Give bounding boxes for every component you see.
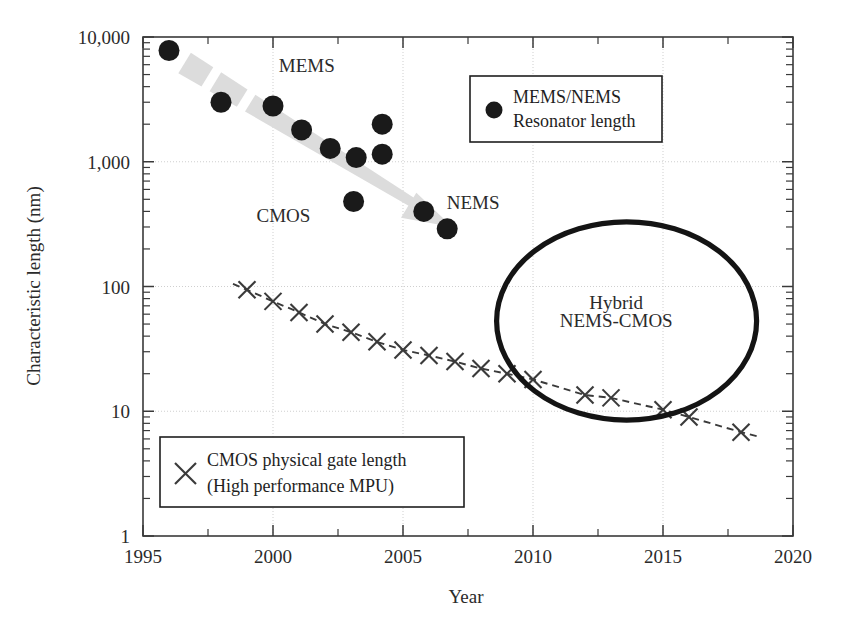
legend-mems-line2: Resonator length bbox=[513, 111, 635, 131]
y-tick-label: 1 bbox=[121, 526, 131, 547]
trend-arrow-segment-1 bbox=[178, 53, 213, 87]
mems-data-point bbox=[320, 138, 341, 159]
cmos-x-marker bbox=[447, 353, 464, 370]
chart-canvas: 10,0001,000100101 1995200020052010201520… bbox=[0, 0, 851, 633]
mems-data-point bbox=[159, 40, 180, 61]
annotation-label: CMOS bbox=[256, 205, 310, 226]
y-axis-tick-labels: 10,0001,000100101 bbox=[78, 27, 130, 547]
x-axis-tick-labels: 199520002005201020152020 bbox=[124, 546, 812, 567]
x-tick-label: 2000 bbox=[254, 546, 292, 567]
x-tick-label: 2005 bbox=[384, 546, 422, 567]
cmos-x-marker bbox=[239, 281, 256, 298]
x-tick-label: 1995 bbox=[124, 546, 162, 567]
mems-data-point bbox=[372, 114, 393, 135]
cmos-x-marker bbox=[733, 424, 750, 441]
cmos-x-marker bbox=[421, 347, 438, 364]
legend-cmos-line2: (High performance MPU) bbox=[207, 476, 394, 497]
x-tick-label: 2020 bbox=[774, 546, 812, 567]
cmos-x-marker bbox=[473, 360, 490, 377]
y-tick-label: 10 bbox=[111, 401, 130, 422]
mems-data-point bbox=[291, 119, 312, 140]
x-axis-title: Year bbox=[448, 586, 484, 607]
mems-data-point bbox=[346, 147, 367, 168]
mems-data-point bbox=[343, 191, 364, 212]
mems-nems-trend-arrow bbox=[178, 53, 452, 227]
mems-data-point bbox=[372, 144, 393, 165]
legend-mems-line1: MEMS/NEMS bbox=[513, 87, 621, 107]
cmos-x-marker bbox=[317, 316, 334, 333]
y-tick-label: 10,000 bbox=[78, 27, 130, 48]
cmos-gate-length-series bbox=[233, 281, 757, 440]
mems-data-point bbox=[211, 92, 232, 113]
y-axis-title: Characteristic length (nm) bbox=[23, 186, 45, 385]
mems-data-point bbox=[263, 95, 284, 116]
annotation-label: NEMS bbox=[447, 192, 500, 213]
legend-cmos-box bbox=[160, 437, 464, 507]
cmos-x-marker bbox=[369, 333, 386, 350]
cmos-x-marker bbox=[291, 304, 308, 321]
y-tick-label: 1,000 bbox=[87, 152, 130, 173]
chart-figure: 10,0001,000100101 1995200020052010201520… bbox=[0, 0, 851, 633]
x-tick-label: 2010 bbox=[514, 546, 552, 567]
legend-cmos-line1: CMOS physical gate length bbox=[207, 450, 406, 470]
annotation-label: MEMS bbox=[279, 55, 335, 76]
x-tick-label: 2015 bbox=[644, 546, 682, 567]
mems-data-point bbox=[437, 218, 458, 239]
filled-circle-marker bbox=[486, 102, 503, 119]
legend-mems-nems[interactable]: MEMS/NEMS Resonator length bbox=[470, 76, 662, 142]
y-tick-label: 100 bbox=[102, 277, 131, 298]
mems-data-point bbox=[413, 201, 434, 222]
legend-cmos[interactable]: CMOS physical gate length (High performa… bbox=[160, 437, 464, 507]
annotation-label: NEMS-CMOS bbox=[560, 310, 673, 331]
cmos-x-marker bbox=[343, 324, 360, 341]
